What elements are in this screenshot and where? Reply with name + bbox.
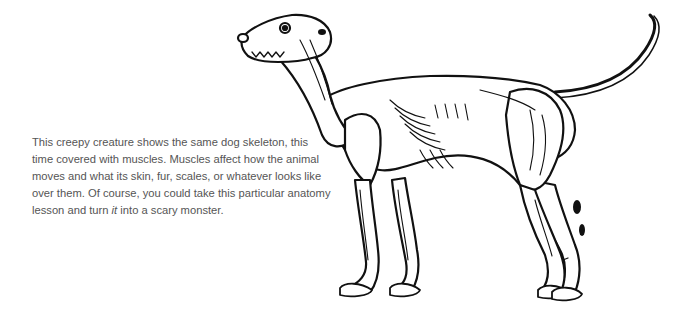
dog-drawing-icon <box>230 0 694 324</box>
caption-text-part-2: into a scary monster. <box>117 204 223 216</box>
dog-muscle-illustration <box>230 0 694 324</box>
